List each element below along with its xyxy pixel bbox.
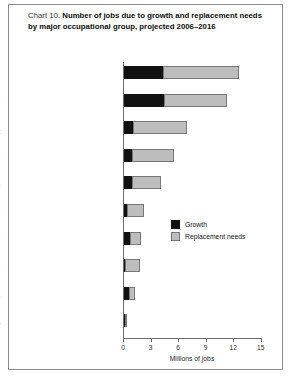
bar-2 [124,121,187,134]
x-tick-label-12: 12 [223,344,243,351]
bar-segment-replacement [127,204,144,217]
x-tick-label-0: 0 [113,344,133,351]
chart-legend: Growth Replacement needs [171,219,245,243]
x-tick-15 [261,338,262,342]
x-tick-12 [233,338,234,342]
legend-item-growth: Growth [171,219,245,230]
bar-6 [124,232,141,245]
x-axis-title: Millions of jobs [123,355,261,362]
x-tick-9 [206,338,207,342]
x-tick-label-3: 3 [141,344,161,351]
bar-segment-replacement [125,314,127,327]
bar-9 [124,314,127,327]
plot-area: 03691215 Millions of jobs ServiceProfess… [0,0,293,389]
bar-4 [124,176,161,189]
x-tick-3 [151,338,152,342]
bar-segment-replacement [164,94,226,107]
bar-8 [124,287,135,300]
bar-segment-replacement [130,232,141,245]
legend-label-growth: Growth [185,221,207,228]
bar-segment-replacement [125,259,140,272]
x-axis-line [123,338,261,339]
bar-segment-replacement [163,66,238,79]
bar-7 [124,259,140,272]
x-tick-label-9: 9 [196,344,216,351]
bar-segment-growth [124,176,132,189]
legend-item-replacement: Replacement needs [171,231,245,242]
x-tick-0 [123,338,124,342]
bar-0 [124,66,239,79]
legend-swatch-replacement-icon [171,232,180,241]
bar-segment-replacement [133,121,187,134]
bar-segment-replacement [132,149,174,162]
bar-segment-growth [124,121,133,134]
legend-swatch-growth-icon [171,220,180,229]
chart-page: Chart 10. Number of jobs due to growth a… [0,0,293,389]
x-tick-label-6: 6 [168,344,188,351]
bar-segment-replacement [129,287,135,300]
bar-1 [124,94,227,107]
x-tick-6 [178,338,179,342]
bar-segment-replacement [132,176,160,189]
bar-segment-growth [124,94,164,107]
bar-segment-growth [124,149,132,162]
legend-label-replacement: Replacement needs [185,233,245,240]
bar-segment-growth [124,66,163,79]
bar-3 [124,149,174,162]
bar-5 [124,204,144,217]
x-tick-label-15: 15 [251,344,271,351]
